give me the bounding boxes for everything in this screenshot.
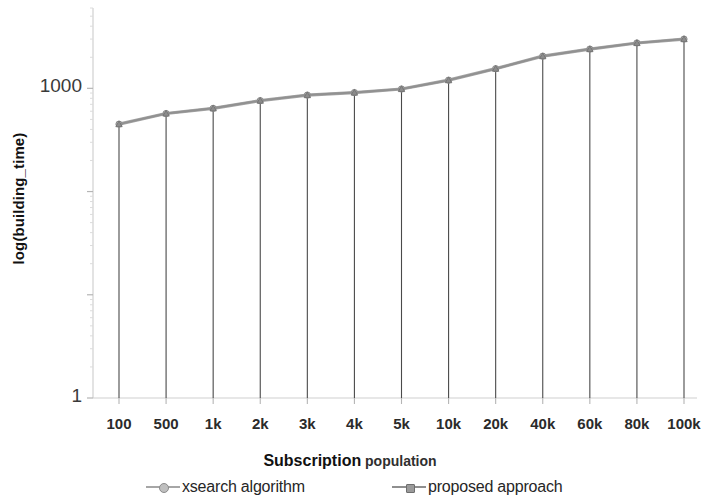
x-axis-tick-label-80k: 80k <box>624 415 649 432</box>
legend-marker-icon-series-1 <box>146 480 180 494</box>
x-axis-tick-label-60k: 60k <box>577 415 602 432</box>
x-axis-tick-label-100: 100 <box>106 415 131 432</box>
x-axis-tick-label-5k: 5k <box>393 415 410 432</box>
x-axis-tick-label-40k: 40k <box>530 415 555 432</box>
legend-label-series-1: xsearch algorithm <box>182 478 305 496</box>
x-axis-tick-label-100k: 100k <box>667 415 700 432</box>
x-axis-title-light: population <box>361 453 436 469</box>
legend-marker-icon-series-2 <box>392 480 426 494</box>
x-axis-tick-label-500: 500 <box>154 415 179 432</box>
y-axis-title: log(building_time) <box>10 89 27 309</box>
y-axis-ticks <box>87 8 93 398</box>
x-axis-tick-label-10k: 10k <box>436 415 461 432</box>
legend-label-series-2: proposed approach <box>428 478 562 496</box>
data-drop-lines <box>119 39 684 398</box>
x-axis-title: Subscription population <box>0 452 700 470</box>
chart-legend: xsearch algorithm proposed approach <box>0 476 700 500</box>
y-axis-tick-label-1000: 1000 <box>10 75 82 97</box>
x-axis-tick-label-3k: 3k <box>299 415 316 432</box>
legend-entry-proposed-approach[interactable]: proposed approach <box>392 476 562 498</box>
x-axis-tick-label-4k: 4k <box>346 415 363 432</box>
x-axis-title-strong: Subscription <box>263 452 361 469</box>
x-axis-tick-label-1k: 1k <box>205 415 222 432</box>
legend-entry-xsearch-algorithm[interactable]: xsearch algorithm <box>146 476 305 498</box>
x-axis-tick-label-2k: 2k <box>252 415 269 432</box>
x-axis-tick-label-20k: 20k <box>483 415 508 432</box>
y-axis-tick-label-1: 1 <box>10 385 82 407</box>
x-axis-ticks <box>119 398 684 404</box>
